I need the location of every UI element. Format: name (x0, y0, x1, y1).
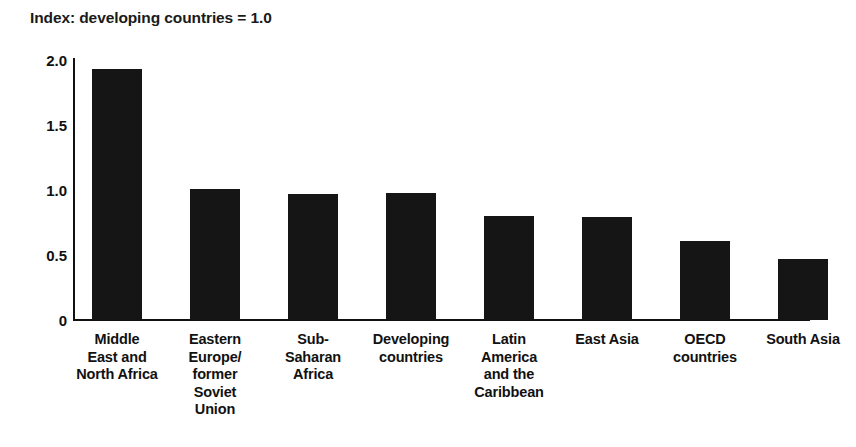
x-axis-label: OECDcountries (656, 331, 754, 366)
x-axis-label-line: Africa (264, 366, 362, 384)
x-axis-label: South Asia (754, 331, 852, 349)
x-axis-label-line: Eastern (166, 331, 264, 349)
y-tick-label: 0.5 (5, 248, 67, 263)
y-tick-label: 2.0 (5, 53, 67, 68)
x-axis-label-line: Middle (68, 331, 166, 349)
x-axis-label-line: OECD (656, 331, 754, 349)
x-axis-label-line: Europe/ (166, 349, 264, 367)
bars-layer (75, 60, 810, 320)
y-tick-label: 1.0 (5, 183, 67, 198)
bar-chart: Index: developing countries = 1.0 00.51.… (0, 0, 856, 447)
x-axis-label-line: East Asia (558, 331, 656, 349)
x-axis-label-line: Caribbean (460, 384, 558, 402)
x-axis-label-line: Union (166, 401, 264, 419)
x-axis-label-line: Soviet (166, 384, 264, 402)
x-axis-label-line: countries (362, 349, 460, 367)
x-axis-label-line: America (460, 349, 558, 367)
y-tick-label: 1.5 (5, 118, 67, 133)
x-axis-label: Sub-SaharanAfrica (264, 331, 362, 384)
bar (288, 194, 338, 320)
bar (92, 69, 142, 320)
x-axis-label-line: former (166, 366, 264, 384)
bar (680, 241, 730, 320)
x-axis-label-line: Latin (460, 331, 558, 349)
bar (484, 216, 534, 320)
x-axis-label: East Asia (558, 331, 656, 349)
y-axis-tick-labels: 00.51.01.52.0 (0, 0, 67, 447)
bar (386, 193, 436, 320)
bar (778, 259, 828, 320)
bar (190, 189, 240, 320)
x-axis-label-line: countries (656, 349, 754, 367)
x-axis-label-line: and the (460, 366, 558, 384)
x-axis-label: EasternEurope/formerSovietUnion (166, 331, 264, 419)
y-tick-label: 0 (5, 313, 67, 328)
bar (582, 217, 632, 320)
x-axis-label: Developingcountries (362, 331, 460, 366)
x-axis-label: LatinAmericaand theCaribbean (460, 331, 558, 401)
x-axis-category-labels: MiddleEast andNorth AfricaEasternEurope/… (75, 331, 810, 447)
x-axis-label-line: South Asia (754, 331, 852, 349)
x-axis-label-line: North Africa (68, 366, 166, 384)
x-axis-label-line: East and (68, 349, 166, 367)
x-axis-label-line: Sub- (264, 331, 362, 349)
x-axis-label: MiddleEast andNorth Africa (68, 331, 166, 384)
x-axis-label-line: Saharan (264, 349, 362, 367)
x-axis-label-line: Developing (362, 331, 460, 349)
